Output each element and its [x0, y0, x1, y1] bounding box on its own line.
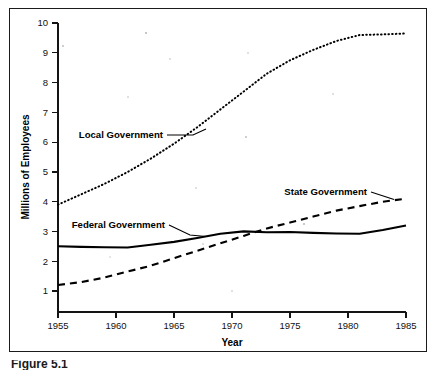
x-tick-label: 1960	[105, 320, 126, 331]
x-tick-label: 1975	[279, 320, 300, 331]
scan-speckles	[62, 32, 334, 292]
y-axis-tick-labels: 1 2 3 4 5 6 7 8 9 10	[37, 17, 48, 296]
series-label-state-government: State Government	[284, 186, 367, 197]
x-axis-ticks	[58, 312, 406, 318]
y-axis-title: Millions of Employees	[20, 114, 31, 219]
series-line-state-government	[58, 199, 406, 285]
leader-line-local-government	[167, 129, 206, 135]
y-axis-ticks	[52, 23, 58, 291]
x-tick-label: 1985	[395, 320, 416, 331]
y-tick-label: 10	[37, 17, 48, 28]
axes: 1 2 3 4 5 6 7 8 9 10	[20, 17, 417, 348]
x-tick-label: 1965	[163, 320, 184, 331]
series-annotations: Local Government State Government Federa…	[72, 129, 394, 237]
figure-caption: Figure 5.1	[11, 360, 171, 370]
y-tick-label: 8	[43, 77, 48, 88]
y-tick-label: 7	[43, 107, 48, 118]
series-line-local-government	[58, 34, 406, 205]
x-axis-title: Year	[221, 337, 242, 348]
series-label-local-government: Local Government	[79, 129, 164, 140]
y-tick-label: 9	[43, 47, 48, 58]
figure-caption-text: Figure 5.1	[11, 360, 171, 370]
line-chart: 1 2 3 4 5 6 7 8 9 10	[10, 9, 426, 351]
chart-frame: 1 2 3 4 5 6 7 8 9 10	[9, 8, 427, 352]
series-label-federal-government: Federal Government	[72, 219, 166, 230]
figure-root: 1 2 3 4 5 6 7 8 9 10	[0, 0, 437, 370]
y-tick-label: 4	[43, 196, 48, 207]
y-tick-label: 6	[43, 136, 48, 147]
y-tick-label: 1	[43, 285, 48, 296]
leader-line-state-government	[371, 192, 394, 200]
x-tick-label: 1980	[337, 320, 358, 331]
x-tick-label: 1970	[221, 320, 242, 331]
y-tick-label: 5	[43, 166, 48, 177]
y-tick-label: 2	[43, 256, 48, 267]
x-tick-label: 1955	[47, 320, 68, 331]
series-group	[58, 34, 406, 286]
x-axis-tick-labels: 1955 1960 1965 1970 1975 1980 1985	[47, 320, 416, 331]
leader-line-federal-government	[169, 225, 206, 237]
y-tick-label: 3	[43, 226, 48, 237]
